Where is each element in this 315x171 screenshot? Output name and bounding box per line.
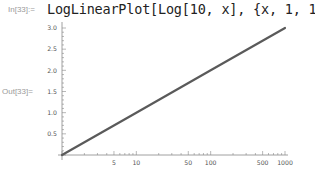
x-tick-label: 500 — [257, 159, 269, 166]
y-tick-label: 2.0 — [47, 67, 57, 74]
y-tick-label: 3.0 — [47, 24, 57, 31]
y-tick-label: 2.5 — [47, 45, 57, 52]
data-line — [62, 28, 285, 155]
x-tick-label: 10 — [132, 159, 140, 166]
y-tick-label: 1.0 — [47, 109, 57, 116]
log-linear-plot: 0.51.01.52.02.53.0 510501005001000 — [0, 0, 315, 171]
y-tick-label: 0.5 — [47, 130, 57, 137]
x-tick-label: 5 — [112, 159, 116, 166]
y-tick-label: 1.5 — [47, 88, 57, 95]
x-tick-label: 1000 — [277, 159, 293, 166]
y-ticks: 0.51.01.52.02.53.0 — [47, 24, 66, 155]
x-ticks: 510501005001000 — [62, 151, 293, 166]
x-tick-label: 50 — [184, 159, 192, 166]
x-tick-label: 100 — [205, 159, 217, 166]
